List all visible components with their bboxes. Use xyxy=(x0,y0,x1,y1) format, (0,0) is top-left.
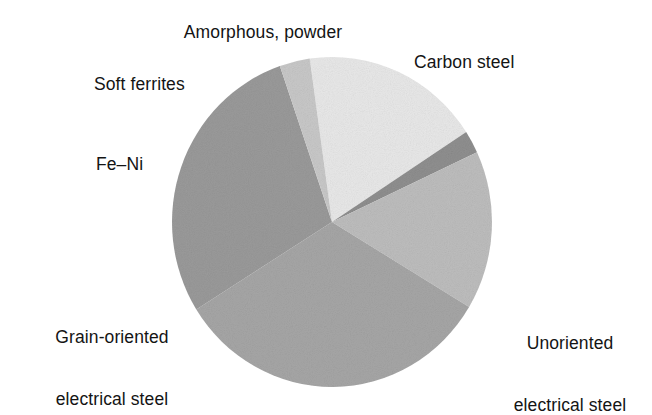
pie-label-carbon-steel: Carbon steel xyxy=(414,52,594,73)
pie-label-soft-ferrites: Soft ferrites xyxy=(94,74,264,95)
pie-label-grain-oriented-electrical-steel: Grain-oriented electrical steel xyxy=(10,286,214,415)
pie-label-unoriented-line-1: Unoriented xyxy=(490,333,650,354)
pie-label-grain-oriented-line-2: electrical steel xyxy=(10,389,214,410)
pie-label-grain-oriented-line-1: Grain-oriented xyxy=(10,327,214,348)
pie-label-unoriented-line-2: electrical steel xyxy=(490,395,650,415)
pie-label-amorphous-powder: Amorphous, powder xyxy=(138,22,388,43)
pie-label-fe-ni: Fe–Ni xyxy=(96,154,206,175)
pie-label-unoriented-electrical-steel: Unoriented electrical steel xyxy=(490,292,650,415)
